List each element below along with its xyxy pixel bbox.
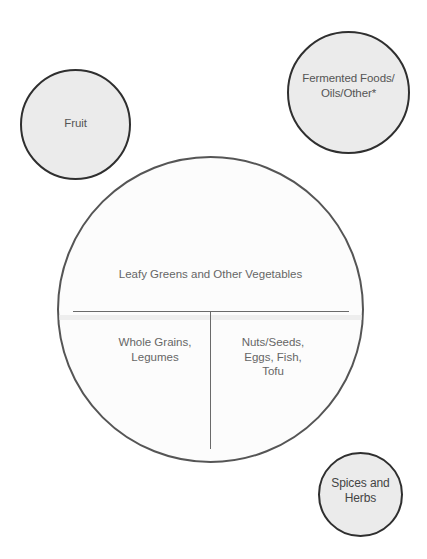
spices-label-line-2: Herbs <box>331 491 389 506</box>
fermented-foods-circle: Fermented Foods/ Oils/Other* <box>287 31 410 154</box>
plate-diagram: Fruit Fermented Foods/ Oils/Other* Leafy… <box>0 0 427 559</box>
protein-label-line-3: Tofu <box>214 364 332 379</box>
protein-label-line-2: Eggs, Fish, <box>214 350 332 365</box>
fruit-label: Fruit <box>64 116 87 131</box>
fruit-circle: Fruit <box>20 69 131 180</box>
plate-vertical-divider <box>210 312 211 449</box>
plate-horizontal-divider <box>73 311 349 312</box>
protein-section-label: Nuts/Seeds, Eggs, Fish, Tofu <box>214 335 332 379</box>
main-plate-circle: Leafy Greens and Other Vegetables Whole … <box>57 156 364 463</box>
spices-label-line-1: Spices and <box>331 476 389 491</box>
fermented-foods-label-line-2: Oils/Other* <box>302 86 394 101</box>
grains-label-line-1: Whole Grains, <box>95 335 215 350</box>
grains-section-label: Whole Grains, Legumes <box>95 335 215 364</box>
vegetables-section-label: Leafy Greens and Other Vegetables <box>59 267 362 282</box>
spices-herbs-label: Spices and Herbs <box>331 476 389 506</box>
fermented-foods-label: Fermented Foods/ Oils/Other* <box>302 71 394 101</box>
fermented-foods-label-line-1: Fermented Foods/ <box>302 71 394 86</box>
spices-herbs-circle: Spices and Herbs <box>318 452 403 537</box>
grains-label-line-2: Legumes <box>95 350 215 365</box>
protein-label-line-1: Nuts/Seeds, <box>214 335 332 350</box>
fruit-label-line: Fruit <box>64 116 87 131</box>
vegetables-label-line: Leafy Greens and Other Vegetables <box>59 267 362 282</box>
